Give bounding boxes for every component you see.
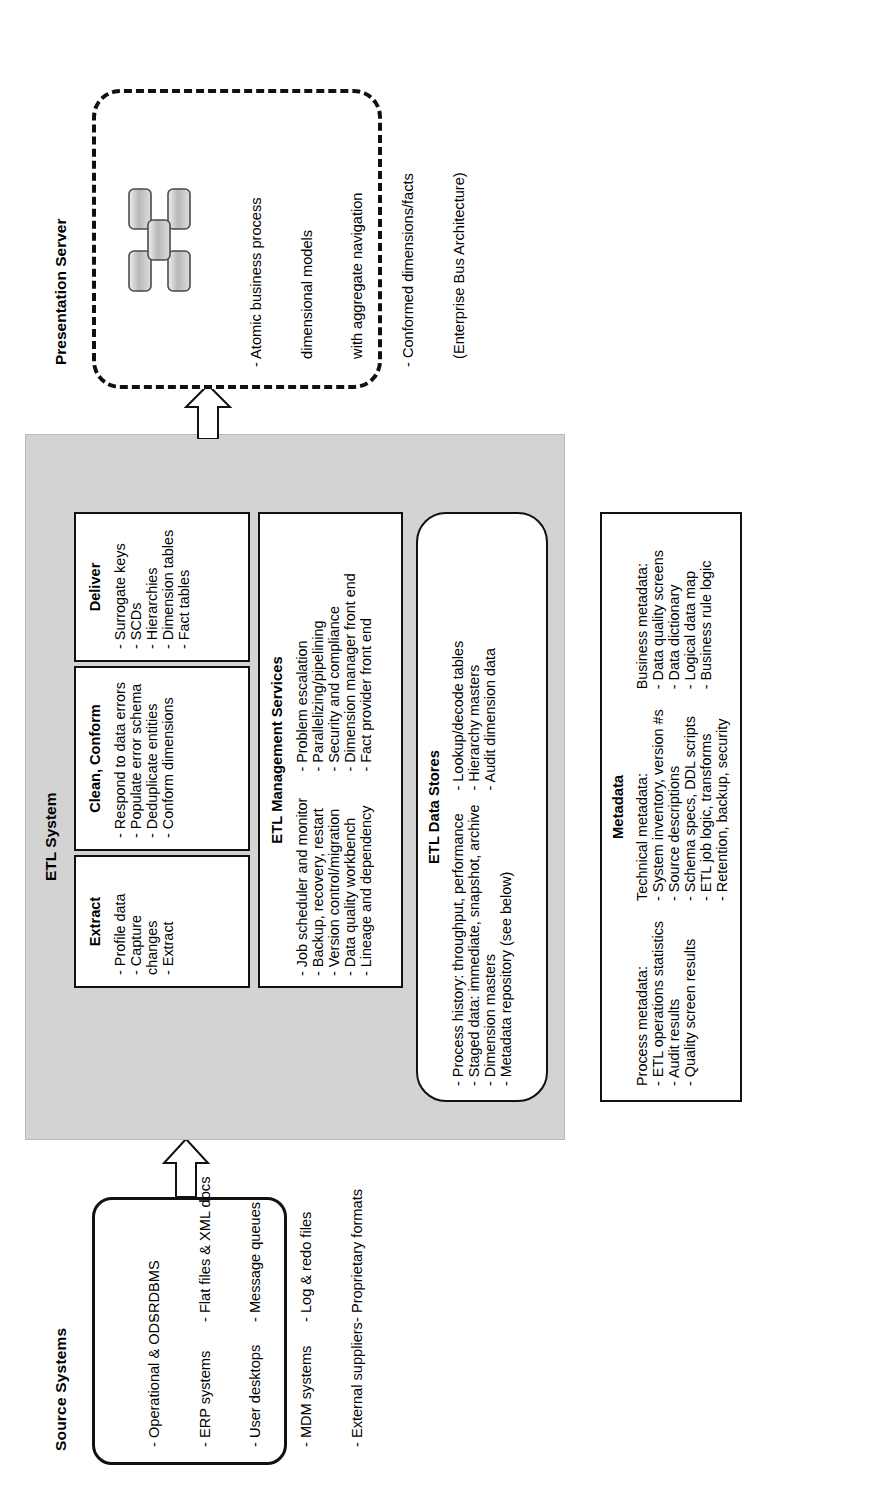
source-systems-title: Source Systems bbox=[52, 1328, 70, 1451]
list-item: - Deduplicate entities bbox=[144, 668, 160, 838]
etl-management-services-box: ETL Management Services - Job scheduler … bbox=[258, 512, 403, 988]
list-item: - ERP systems bbox=[197, 1313, 214, 1447]
etl-management-services-lists: - Job scheduler and monitor - Backup, re… bbox=[294, 514, 374, 976]
list-item: - Hierarchies bbox=[144, 514, 160, 649]
list-item: - Lookup/decode tables bbox=[450, 641, 466, 791]
list-item: - RDBMS bbox=[146, 1177, 163, 1322]
extract-title: Extract bbox=[87, 857, 103, 986]
list-item: - Data quality workbench bbox=[342, 798, 358, 976]
arrow-source-to-etl bbox=[160, 1137, 218, 1197]
extract-list: - Profile data - Capture changes - Extra… bbox=[112, 857, 176, 975]
list-item: - Populate error schema bbox=[128, 668, 144, 838]
list-item: - Conformed dimensions/facts bbox=[400, 172, 417, 367]
eds-column-b: - Lookup/decode tables - Hierarchy maste… bbox=[450, 641, 514, 791]
etl-data-stores-lists: - Process history: throughput, performan… bbox=[450, 514, 514, 1086]
list-item: - Problem escalation bbox=[294, 573, 310, 771]
list-item: - Profile data bbox=[112, 857, 128, 975]
list-item: - Dimension manager front end bbox=[342, 573, 358, 771]
list-item: - Metadata repository (see below) bbox=[498, 804, 514, 1086]
list-item: - Parallelizing/pipelining bbox=[310, 573, 326, 771]
presentation-server-title: Presentation Server bbox=[52, 219, 70, 365]
list-item: - Lineage and dependency bbox=[358, 798, 374, 976]
presentation-server-list: - Atomic business process dimensional mo… bbox=[214, 172, 502, 367]
list-item: - Proprietary formats bbox=[349, 1177, 366, 1322]
source-systems-column-b: - RDBMS - Flat files & XML docs - Messag… bbox=[112, 1177, 400, 1322]
etl-system-title: ETL System bbox=[42, 793, 60, 881]
list-item: - Security and compliance bbox=[326, 573, 342, 771]
list-item: - Atomic business process bbox=[248, 172, 265, 367]
list-item: - System inventory, version #s bbox=[650, 709, 666, 901]
list-item: - ETL job logic, transforms bbox=[698, 709, 714, 901]
list-item: - Schema specs, DDL scripts bbox=[682, 709, 698, 901]
extract-box: Extract - Profile data - Capture changes… bbox=[74, 855, 250, 988]
list-item: - Conform dimensions bbox=[160, 668, 176, 838]
list-item: - Data dictionary bbox=[666, 550, 682, 689]
list-item: - Fact tables bbox=[176, 514, 192, 649]
list-item: with aggregate navigation bbox=[349, 172, 366, 367]
deliver-title: Deliver bbox=[87, 514, 103, 660]
ems-column-b: - Problem escalation - Parallelizing/pip… bbox=[294, 573, 374, 771]
list-item: - Business rule logic bbox=[698, 550, 714, 689]
list-item: - Log & redo files bbox=[298, 1177, 315, 1322]
list-item: - Logical data map bbox=[682, 550, 698, 689]
list-item: - Process history: throughput, performan… bbox=[450, 804, 466, 1086]
list-item: - Audit dimension data bbox=[482, 641, 498, 791]
list-item: - Backup, recovery, restart bbox=[310, 798, 326, 976]
list-item: - ETL operations statistics bbox=[650, 921, 666, 1086]
list-item: - Capture bbox=[128, 857, 144, 975]
list-item: - Staged data: immediate, snapshot, arch… bbox=[466, 804, 482, 1086]
list-item: - SCDs bbox=[128, 514, 144, 649]
list-item: - Respond to data errors bbox=[112, 668, 128, 838]
list-item: dimensional models bbox=[299, 172, 316, 367]
clean-conform-title: Clean, Conform bbox=[87, 668, 103, 849]
list-item: - Job scheduler and monitor bbox=[294, 798, 310, 976]
etl-management-services-title: ETL Management Services bbox=[269, 514, 285, 986]
metadata-process-heading: Process metadata: bbox=[634, 921, 650, 1086]
metadata-business-heading: Business metadata: bbox=[634, 550, 650, 689]
ems-column-a: - Job scheduler and monitor - Backup, re… bbox=[294, 798, 374, 976]
arrow-etl-to-presentation bbox=[182, 383, 240, 439]
list-item: - User desktops bbox=[247, 1313, 264, 1447]
list-item: - Fact provider front end bbox=[358, 573, 374, 771]
metadata-business-column: Business metadata: - Data quality screen… bbox=[634, 550, 730, 689]
metadata-process-column: Process metadata: - ETL operations stati… bbox=[634, 921, 730, 1086]
list-item: - Flat files & XML docs bbox=[197, 1177, 214, 1322]
metadata-technical-column: Technical metadata: - System inventory, … bbox=[634, 709, 730, 901]
list-item: - Operational & ODS bbox=[146, 1313, 163, 1447]
list-item: - Surrogate keys bbox=[112, 514, 128, 649]
star-schema-icon bbox=[118, 175, 200, 305]
list-item: - Source descriptions bbox=[666, 709, 682, 901]
clean-conform-box: Clean, Conform - Respond to data errors … bbox=[74, 666, 250, 851]
list-item: - External suppliers bbox=[349, 1313, 366, 1447]
list-item: - Message queues bbox=[247, 1177, 264, 1322]
deliver-list: - Surrogate keys - SCDs - Hierarchies - … bbox=[112, 514, 192, 649]
list-item: - Dimension masters bbox=[482, 804, 498, 1086]
list-item: - Retention, backup, security bbox=[714, 709, 730, 901]
list-item: - MDM systems bbox=[298, 1313, 315, 1447]
list-item: - Audit results bbox=[666, 921, 682, 1086]
list-item: changes bbox=[144, 857, 160, 975]
list-item: - Version control/migration bbox=[326, 798, 342, 976]
list-item: - Dimension tables bbox=[160, 514, 176, 649]
list-item: - Data quality screens bbox=[650, 550, 666, 689]
metadata-technical-heading: Technical metadata: bbox=[634, 709, 650, 901]
list-item: - Hierarchy masters bbox=[466, 641, 482, 791]
metadata-title: Metadata bbox=[610, 514, 626, 1100]
clean-conform-list: - Respond to data errors - Populate erro… bbox=[112, 668, 176, 838]
list-item: - Extract bbox=[160, 857, 176, 975]
deliver-box: Deliver - Surrogate keys - SCDs - Hierar… bbox=[74, 512, 250, 662]
source-systems-column-a: - Operational & ODS - ERP systems - User… bbox=[112, 1313, 400, 1447]
list-item: (Enterprise Bus Architecture) bbox=[451, 172, 468, 367]
list-item: - Quality screen results bbox=[682, 921, 698, 1086]
eds-column-a: - Process history: throughput, performan… bbox=[450, 804, 514, 1086]
etl-data-stores-title: ETL Data Stores bbox=[426, 514, 442, 1100]
metadata-box: Metadata Process metadata: - ETL operati… bbox=[600, 512, 742, 1102]
diagram-canvas: Source Systems - Operational & ODS - ERP… bbox=[0, 0, 881, 1485]
metadata-lists: Process metadata: - ETL operations stati… bbox=[634, 514, 730, 1086]
etl-data-stores-box: ETL Data Stores - Process history: throu… bbox=[416, 512, 548, 1102]
